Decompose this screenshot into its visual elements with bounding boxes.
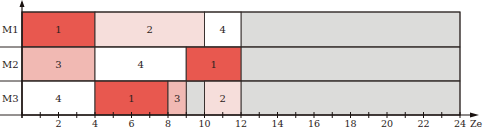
task-label-m2-job-1: 1 (210, 59, 216, 70)
x-axis-arrow-icon (470, 113, 479, 118)
x-tick-label-8: 8 (165, 118, 171, 129)
idle-block-m3-3 (241, 81, 460, 115)
task-label-m2-job-3: 3 (55, 59, 61, 70)
gantt-chart: 124341413224681012141618202224ZeM1M2M3 (0, 0, 483, 133)
x-axis-label: Ze (470, 118, 483, 129)
x-tick-label-2: 2 (55, 118, 61, 129)
task-label-m1-job-4: 4 (220, 24, 226, 35)
task-label-m3-job-3: 3 (174, 93, 180, 104)
x-tick-label-14: 14 (271, 118, 283, 129)
x-tick-label-10: 10 (198, 118, 210, 129)
x-tick-label-22: 22 (417, 118, 429, 129)
x-tick-label-18: 18 (344, 118, 356, 129)
x-tick-label-16: 16 (308, 118, 320, 129)
x-tick-label-24: 24 (454, 118, 466, 129)
machine-label-m2: M2 (2, 59, 19, 70)
task-label-m1-job-2: 2 (147, 24, 153, 35)
task-label-m3-job-2: 2 (220, 93, 226, 104)
x-tick-label-12: 12 (235, 118, 247, 129)
task-label-m1-job-1: 1 (55, 24, 61, 35)
machine-label-m3: M3 (2, 93, 19, 104)
x-tick-label-4: 4 (92, 118, 98, 129)
x-tick-label-20: 20 (381, 118, 393, 129)
machine-label-m1: M1 (2, 24, 19, 35)
y-axis-arrow-icon (20, 0, 25, 7)
task-label-m2-job-4: 4 (137, 59, 143, 70)
idle-block-m3-2 (186, 81, 204, 115)
idle-block-m1-0 (241, 12, 460, 47)
x-tick-label-6: 6 (128, 118, 134, 129)
task-label-m3-job-4: 4 (55, 93, 61, 104)
task-label-m3-job-1: 1 (128, 93, 134, 104)
idle-block-m2-1 (241, 47, 460, 81)
